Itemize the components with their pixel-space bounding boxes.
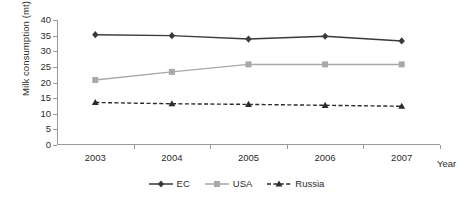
x-axis-title: Year <box>437 158 456 169</box>
plot-area: 0510152025303540 20032004200520062007 <box>57 20 440 145</box>
data-point-marker <box>245 35 251 42</box>
x-tick-mark <box>363 145 364 149</box>
series-usa <box>92 61 404 83</box>
y-tick-label: 20 <box>40 77 51 88</box>
legend-swatch-russia <box>266 179 292 189</box>
y-tick-label: 0 <box>46 139 51 150</box>
legend-label: EC <box>177 178 190 189</box>
legend-swatch-ec <box>148 179 174 189</box>
data-point-marker <box>169 32 175 39</box>
y-tick-label: 35 <box>40 30 51 41</box>
y-axis-title: Milk consumption (mt) <box>20 0 31 119</box>
legend-item-ec[interactable]: EC <box>148 178 190 189</box>
data-point-marker <box>399 37 405 44</box>
x-tick-mark <box>287 145 288 149</box>
legend-item-russia[interactable]: Russia <box>266 178 324 189</box>
data-point-marker <box>157 180 163 187</box>
data-point-marker <box>399 61 405 67</box>
data-point-marker <box>214 181 220 187</box>
y-tick-label: 25 <box>40 61 51 72</box>
data-point-marker <box>92 77 98 83</box>
line-chart: Milk consumption (mt) 0510152025303540 2… <box>0 0 472 202</box>
y-tick-label: 5 <box>46 123 51 134</box>
y-tick-label: 30 <box>40 45 51 56</box>
legend-label: Russia <box>295 178 324 189</box>
data-point-marker <box>92 31 98 38</box>
y-tick-mark <box>53 145 57 146</box>
x-tick-label: 2004 <box>161 152 182 163</box>
x-tick-mark <box>210 145 211 149</box>
x-tick-label: 2006 <box>315 152 336 163</box>
x-tick-label: 2007 <box>391 152 412 163</box>
y-tick-label: 15 <box>40 92 51 103</box>
chart-legend: ECUSARussia <box>0 178 472 189</box>
legend-item-usa[interactable]: USA <box>204 178 253 189</box>
series-ec <box>92 31 405 44</box>
series-russia <box>92 99 405 109</box>
legend-label: USA <box>233 178 253 189</box>
legend-swatch-usa <box>204 179 230 189</box>
data-point-marker <box>322 61 328 67</box>
y-tick-label: 40 <box>40 14 51 25</box>
x-tick-mark <box>134 145 135 149</box>
x-tick-mark <box>440 145 441 149</box>
x-tick-label: 2005 <box>238 152 259 163</box>
x-tick-label: 2003 <box>85 152 106 163</box>
series-lines <box>57 20 440 145</box>
data-point-marker <box>169 69 175 75</box>
data-point-marker <box>246 61 252 67</box>
y-tick-label: 10 <box>40 108 51 119</box>
data-point-marker <box>322 33 328 40</box>
